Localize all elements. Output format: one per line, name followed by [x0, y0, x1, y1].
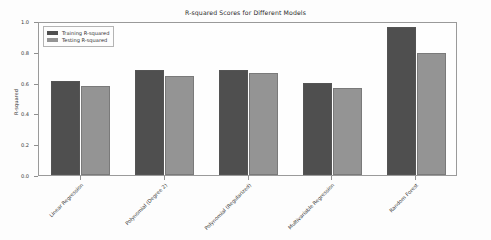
y-axis-tick-label: 0.4 — [0, 111, 29, 117]
y-axis-tick-mark — [34, 176, 38, 177]
bar — [387, 27, 416, 175]
y-axis-tick-mark — [34, 114, 38, 115]
bar-group — [135, 23, 194, 175]
chart-title: R-squared Scores for Different Models — [0, 9, 491, 16]
chart-figure: R-squared Scores for Different Models R-… — [0, 0, 491, 240]
bar-group — [387, 23, 446, 175]
bar — [135, 70, 164, 175]
bar — [51, 81, 80, 175]
legend-item: Testing R-squared — [47, 37, 109, 44]
bar — [219, 70, 248, 175]
bar — [249, 73, 278, 175]
y-axis-tick-label: 1.0 — [0, 19, 29, 25]
legend-swatch-icon — [47, 38, 58, 42]
y-axis-tick-label: 0.8 — [0, 50, 29, 56]
x-axis-tick-label: Polynomial (Regularized) — [203, 182, 252, 231]
bar-group — [303, 23, 362, 175]
y-axis-tick-label: 0.0 — [0, 173, 29, 179]
legend-item-label: Training R-squared — [62, 30, 109, 36]
bar — [81, 86, 110, 175]
x-axis-tick-mark — [331, 176, 332, 180]
y-axis-tick-mark — [34, 145, 38, 146]
x-axis-tick-mark — [80, 176, 81, 180]
y-axis-tick-mark — [34, 22, 38, 23]
legend-item-label: Testing R-squared — [62, 37, 107, 43]
bar-group — [219, 23, 278, 175]
bar — [333, 88, 362, 175]
bar — [165, 76, 194, 175]
x-axis-tick-mark — [164, 176, 165, 180]
y-axis-tick-label: 0.2 — [0, 142, 29, 148]
x-axis-tick-label: Multivariable Regression — [287, 182, 335, 230]
x-axis-tick-label: Linear Regression — [48, 182, 84, 218]
y-axis-tick-label: 0.6 — [0, 81, 29, 87]
y-axis-tick-mark — [34, 84, 38, 85]
legend-item: Training R-squared — [47, 30, 109, 37]
x-axis-tick-mark — [415, 176, 416, 180]
legend-swatch-icon — [47, 31, 58, 35]
bar — [417, 53, 446, 175]
y-axis-tick-mark — [34, 53, 38, 54]
x-axis-tick-mark — [248, 176, 249, 180]
bar — [303, 83, 332, 175]
chart-legend: Training R-squaredTesting R-squared — [43, 26, 114, 47]
x-axis-tick-label: Polynomial (Degree 2) — [124, 182, 168, 226]
x-axis-tick-label: Random Forest — [388, 182, 419, 213]
